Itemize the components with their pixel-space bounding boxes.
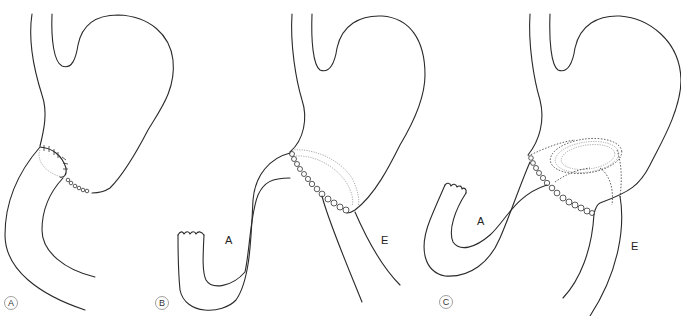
stomach-outline-b [290,14,305,152]
bead-row-b [290,152,350,214]
panel-b: A E B [156,14,426,310]
svg-text:A: A [8,298,14,308]
efferent-label-c: E [631,240,638,252]
bead-row-a [66,178,89,193]
svg-text:C: C [443,297,450,307]
panel-label-b: B [156,297,169,310]
efferent-label-b: E [381,234,388,246]
panel-label-c: C [440,296,453,309]
stomach-outline-a [31,14,45,146]
panel-label-a: A [5,297,18,310]
afferent-label-c: A [477,215,485,227]
svg-text:B: B [159,298,165,308]
panel-c: A E C [424,14,681,316]
panel-a: A [5,14,174,310]
afferent-label-b: A [225,234,233,246]
stomach-outline-c [528,14,542,155]
bead-row-c [529,156,595,216]
surgical-diagram: A [0,0,681,316]
